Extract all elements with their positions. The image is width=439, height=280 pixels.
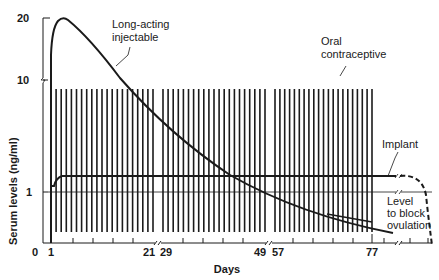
serum-levels-chart: 20 10 1 0 1 21 29 49 57 77 Days Serum le… <box>0 0 439 280</box>
oral-contraceptive-pulses <box>51 89 372 232</box>
x-axis-title: Days <box>214 263 240 275</box>
x-tick-57: 57 <box>272 246 284 258</box>
level-label-line3: ovulation <box>387 219 431 231</box>
oral-label-line2: contraceptive <box>321 48 386 60</box>
x-tick-49: 49 <box>254 246 266 258</box>
y-tick-20: 20 <box>17 12 29 24</box>
x-tick-0: 0 <box>32 246 38 258</box>
x-tick-21: 21 <box>143 246 155 258</box>
level-label-line1: Level <box>387 195 413 207</box>
y-tick-1: 1 <box>26 186 32 198</box>
x-tick-29: 29 <box>160 246 172 258</box>
annotation-leaders <box>116 47 398 222</box>
implant-series <box>52 174 432 245</box>
oral-label-line1: Oral <box>321 35 342 47</box>
y-axis-title: Serum levels (ng/ml) <box>7 137 19 245</box>
x-tick-1: 1 <box>48 246 54 258</box>
injectable-label-line1: Long-acting <box>112 18 170 30</box>
y-tick-10: 10 <box>17 74 29 86</box>
level-label-line2: to block <box>387 207 425 219</box>
x-axis <box>43 234 432 245</box>
x-tick-77: 77 <box>366 246 378 258</box>
implant-label: Implant <box>382 138 418 150</box>
injectable-label-line2: injectable <box>112 31 158 43</box>
y-axis <box>41 18 50 243</box>
